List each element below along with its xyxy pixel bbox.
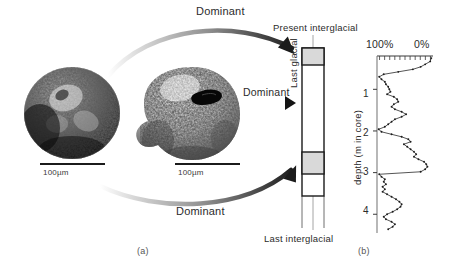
chart-depth-axis-ticks (373, 89, 377, 214)
specimen-dark-foraminifera (20, 67, 120, 164)
axis-label-0-percent: 0% (414, 38, 430, 50)
depth-tick-label-3: 3 (363, 166, 369, 177)
depth-tick-label-1: 1 (363, 88, 369, 99)
label-last-interglacial: Last interglacial (264, 233, 333, 244)
axis-title-depth: depth (m in core) (352, 110, 363, 185)
band-last-interglacial (302, 152, 324, 174)
label-present-interglacial: Present interglacial (273, 22, 358, 33)
core-column (302, 35, 324, 230)
arrow-middle-dominant (246, 96, 296, 110)
depth-abundance-chart (373, 56, 433, 233)
chart-top-axis-ticks (380, 56, 431, 60)
panel-caption-a: (a) (137, 246, 149, 256)
scale-bar-label-1: 100µm (43, 168, 69, 177)
panel-caption-b: (b) (358, 246, 370, 256)
depth-tick-label-4: 4 (363, 205, 369, 216)
label-last-glacial: Last glacial (288, 38, 299, 88)
arrow-label-dominant-bottom: Dominant (176, 205, 225, 217)
band-present-interglacial (302, 48, 324, 65)
scale-bar-label-2: 100µm (178, 168, 204, 177)
axis-label-100-percent: 100% (366, 38, 394, 50)
specimen-pale-foraminifera (136, 60, 246, 166)
depth-tick-label-2: 2 (363, 127, 369, 138)
arrow-label-dominant-top: Dominant (196, 5, 245, 17)
arrow-label-dominant-middle: Dominant (243, 86, 290, 98)
